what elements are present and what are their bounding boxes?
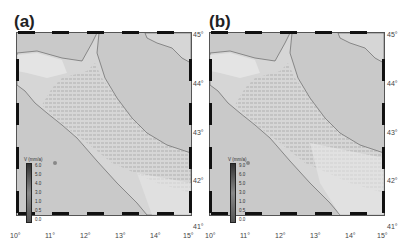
colorbar-title: V (mm/a) [228,157,247,162]
y-tick-label: 42° [193,177,204,184]
colorbar-a: V (mm/a) 6.0 5.0 4.0 3.0 1.0 0.5 0.0 [24,157,54,225]
colorbar-title: V (mm/a) [24,157,43,162]
x-tick-label: 15° [183,232,194,239]
y-tick-label: 45° [387,31,398,38]
colorbar-tick: 6.0 [35,163,41,168]
y-tick-label: 44° [387,80,398,87]
colorbar-tick: 0.0 [35,217,41,222]
colorbar-tick: 5.0 [35,172,41,177]
colorbar-tick: 0.5 [239,208,245,213]
colorbar-tick: 3.0 [35,190,41,195]
y-tick-label: 41° [193,223,204,230]
colorbar-tick: 0.0 [239,217,245,222]
y-tick-label: 42° [387,177,398,184]
y-tick-label: 41° [387,223,398,230]
colorbar-tick: 9.0 [239,163,245,168]
x-tick-label: 10° [205,232,216,239]
colorbar-tick: 4.0 [35,181,41,186]
panel-label-a: (a) [14,12,35,32]
x-tick-label: 14° [150,232,161,239]
x-tick-label: 13° [310,232,321,239]
map-panel-b: (b) 10° 11° 12° [205,0,412,248]
panel-label-b: (b) [209,12,231,32]
y-tick-label: 45° [193,31,204,38]
x-tick-label: 13° [115,232,126,239]
colorbar-tick: 0.5 [35,208,41,213]
x-tick-label: 11° [240,232,250,239]
colorbar-b: V (mm/a) 9.0 6.0 5.0 3.0 1.0 0.5 0.0 [228,157,258,225]
colorbar-gradient [230,163,236,223]
colorbar-tick: 5.0 [239,181,245,186]
x-tick-label: 10° [10,232,21,239]
y-tick-label: 43° [387,129,398,136]
colorbar-tick: 1.0 [35,199,41,204]
x-tick-label: 15° [377,232,388,239]
x-tick-label: 12° [80,232,91,239]
x-tick-label: 12° [275,232,286,239]
colorbar-gradient [26,163,32,223]
x-tick-label: 11° [45,232,55,239]
colorbar-tick: 6.0 [239,172,245,177]
y-tick-label: 43° [193,129,204,136]
map-panel-a: (a) [0,0,207,248]
colorbar-tick: 3.0 [239,190,245,195]
x-tick-label: 14° [345,232,356,239]
y-tick-label: 44° [193,80,204,87]
colorbar-tick: 1.0 [239,199,245,204]
